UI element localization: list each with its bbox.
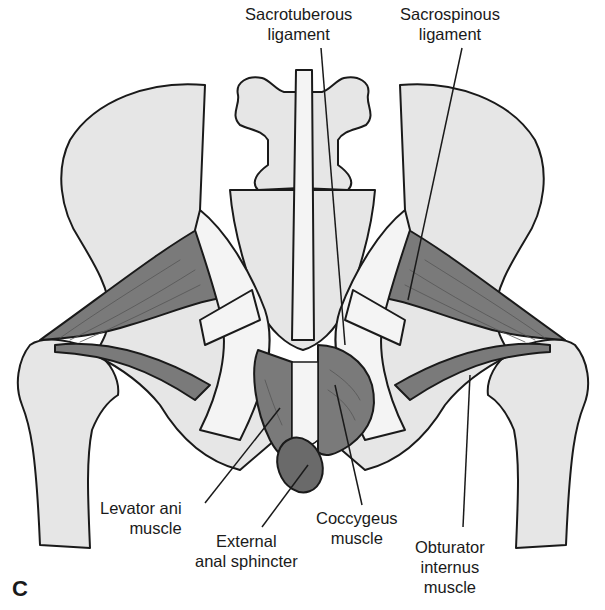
label-sacrotuberous-ligament: Sacrotuberous ligament	[245, 4, 352, 44]
pelvis-illustration	[0, 0, 605, 610]
anatomy-figure: Sacrotuberous ligament Sacrospinous liga…	[0, 0, 605, 610]
label-sacrospinous-ligament: Sacrospinous ligament	[400, 4, 500, 44]
supraspinous-ligament	[292, 70, 314, 340]
label-external-anal-sphincter: External anal sphincter	[195, 531, 298, 571]
panel-letter: C	[12, 576, 28, 602]
label-levator-ani-muscle: Levator ani muscle	[100, 498, 182, 538]
label-obturator-internus-muscle: Obturator internus muscle	[415, 537, 485, 597]
leader-obturator	[463, 375, 470, 527]
right-femur	[488, 340, 588, 548]
coccyx-gap	[292, 362, 318, 446]
label-coccygeus-muscle: Coccygeus muscle	[316, 508, 398, 548]
